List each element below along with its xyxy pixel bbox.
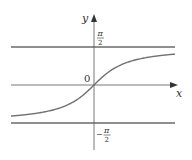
arctan-graph: y x 0 π 2 − π 2 xyxy=(0,0,192,160)
lower-label-numerator: π xyxy=(103,126,110,135)
upper-label-denominator: 2 xyxy=(98,39,102,47)
y-axis-label: y xyxy=(81,12,89,25)
x-axis-label: x xyxy=(176,87,183,100)
lower-asymptote-label: − π 2 xyxy=(96,126,111,144)
lower-label-sign: − xyxy=(96,130,103,139)
upper-label-numerator: π xyxy=(97,29,104,38)
lower-label-denominator: 2 xyxy=(105,136,109,144)
upper-asymptote-label: π 2 xyxy=(97,29,105,47)
y-axis-arrow-icon xyxy=(91,14,97,22)
origin-label: 0 xyxy=(84,73,90,84)
